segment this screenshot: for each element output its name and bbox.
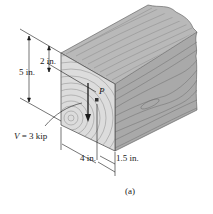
shear-force-value: = 3 kip — [20, 131, 48, 141]
beam-diagram — [0, 0, 213, 214]
dimension-1-5in-label: 1.5 in. — [116, 154, 139, 163]
dimension-2in-label: 2 in. — [40, 57, 56, 66]
dimension-5in-label: 5 in. — [19, 68, 35, 77]
point-p-marker — [95, 98, 99, 102]
dimension-4in-label: 4 in. — [80, 154, 96, 163]
shear-force-label: V = 3 kip — [14, 132, 47, 141]
figure-caption: (a) — [125, 187, 135, 196]
point-p-label: P — [99, 87, 105, 96]
